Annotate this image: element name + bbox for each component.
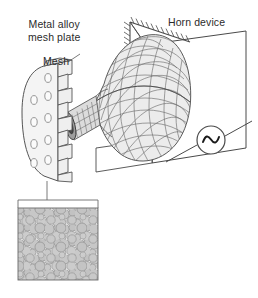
inset-leader <box>18 181 98 208</box>
mesh-label-leader <box>68 54 80 62</box>
plate-hole <box>31 96 37 105</box>
label-mesh: Mesh <box>43 55 69 67</box>
mesh-plate-face <box>22 63 58 181</box>
plate-edge-seg <box>58 130 68 147</box>
inset-pore-layer-b <box>18 208 98 280</box>
diagram-svg <box>0 0 258 298</box>
plate-hole <box>45 114 51 123</box>
plate-hole <box>31 118 37 127</box>
label-metal-alloy-mesh-plate: Metal alloy mesh plate <box>28 18 80 43</box>
plate-edge-seg <box>58 74 68 91</box>
label-horn-device: Horn device <box>168 16 225 28</box>
plate-hole <box>45 156 51 165</box>
plate-edge-seg <box>58 102 68 119</box>
plate-hole <box>45 74 51 83</box>
plate-hole <box>31 159 37 168</box>
mesh-micrograph-inset <box>18 208 98 280</box>
plate-hole <box>31 140 37 149</box>
label-metal-alloy-line1: Metal alloy <box>28 18 80 31</box>
figure-container: Metal alloy mesh plate Mesh Horn device <box>0 0 258 298</box>
label-metal-alloy-line2: mesh plate <box>28 31 80 44</box>
horn-device <box>62 35 194 165</box>
mesh-plate <box>22 58 72 182</box>
plate-edge-seg <box>58 158 68 175</box>
plate-hole <box>45 136 51 145</box>
mesh-plate-edge <box>58 60 72 182</box>
plate-hole <box>45 92 51 101</box>
